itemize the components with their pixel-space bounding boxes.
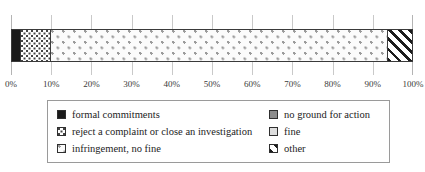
legend-item-reject-a-complaint-or-close-an-investigation[interactable]: reject a complaint or close an investiga…	[57, 123, 269, 140]
stacked-bar-chart: 0%10%20%30%40%50%60%70%80%90%100% formal…	[0, 0, 425, 172]
tick-label-30pct: 30%	[123, 78, 140, 90]
tick-label-70pct: 70%	[284, 78, 301, 90]
legend-item-fine[interactable]: fine	[269, 123, 380, 140]
x-axis-tick-labels: 0%10%20%30%40%50%60%70%80%90%100%	[11, 78, 413, 92]
tick-label-80pct: 80%	[324, 78, 341, 90]
tick-label-50pct: 50%	[204, 78, 221, 90]
legend-swatch-fine-icon	[269, 127, 278, 136]
tick-label-60pct: 60%	[244, 78, 261, 90]
tick-label-20pct: 20%	[83, 78, 100, 90]
plot-area	[11, 15, 413, 75]
tick-label-90pct: 90%	[365, 78, 382, 90]
legend-label-fine: fine	[284, 126, 300, 138]
legend-item-formal-commitments[interactable]: formal commitments	[57, 106, 269, 123]
bar-segment-reject-a-complaint-or-close-an-investigation	[21, 29, 51, 62]
bar-segment-other	[388, 29, 413, 62]
stacked-bar	[11, 29, 413, 62]
tick-label-100pct: 100%	[403, 78, 424, 90]
legend-swatch-infringement-no-fine-icon	[57, 144, 66, 153]
legend-label-other: other	[284, 143, 306, 155]
legend: formal commitmentsno ground for actionre…	[47, 100, 390, 163]
legend-swatch-no-ground-for-action-icon	[269, 110, 278, 119]
legend-label-no-ground-for-action: no ground for action	[284, 109, 370, 121]
legend-label-formal-commitments: formal commitments	[72, 109, 160, 121]
legend-swatch-reject-a-complaint-or-close-an-investigation-icon	[57, 127, 66, 136]
legend-swatch-other-icon	[269, 144, 278, 153]
legend-grid: formal commitmentsno ground for actionre…	[57, 106, 380, 157]
legend-item-other[interactable]: other	[269, 140, 380, 157]
bar-segment-formal-commitments	[11, 29, 21, 62]
legend-item-no-ground-for-action[interactable]: no ground for action	[269, 106, 380, 123]
legend-swatch-formal-commitments-icon	[57, 110, 66, 119]
tick-label-40pct: 40%	[164, 78, 181, 90]
tick-label-10pct: 10%	[43, 78, 60, 90]
legend-label-reject-a-complaint-or-close-an-investigation: reject a complaint or close an investiga…	[72, 126, 252, 138]
legend-item-infringement-no-fine[interactable]: infringement, no fine	[57, 140, 269, 157]
tick-label-0pct: 0%	[5, 78, 17, 90]
bar-segment-infringement-no-fine	[51, 29, 388, 62]
legend-label-infringement-no-fine: infringement, no fine	[72, 143, 161, 155]
